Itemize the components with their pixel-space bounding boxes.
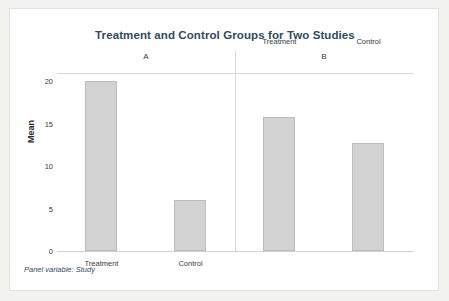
- x-axis-line: [57, 251, 413, 252]
- y-tick-label-20: 20: [27, 77, 53, 86]
- y-tick-label-0: 0: [27, 247, 53, 256]
- panel-variable-note: Panel variable: Study: [24, 265, 95, 274]
- bar-panel-a-control[interactable]: [174, 200, 206, 251]
- bar-panel-b-treatment[interactable]: [263, 117, 295, 251]
- plot-area: A B Treatment Control Mean 0 5 10 15 20 …: [57, 73, 413, 251]
- panel-label-b: B: [235, 52, 413, 61]
- y-tick-label-15: 15: [27, 119, 53, 128]
- group-top-label-treatment: Treatment: [235, 37, 324, 46]
- x-tick-label-control-a: Control: [146, 259, 235, 268]
- panel-divider: [235, 51, 236, 251]
- chart-figure: Treatment and Control Groups for Two Stu…: [9, 8, 439, 291]
- y-tick-label-10: 10: [27, 162, 53, 171]
- group-top-label-control: Control: [324, 37, 413, 46]
- bar-panel-a-treatment[interactable]: [85, 81, 117, 251]
- bar-panel-b-control[interactable]: [352, 143, 384, 252]
- panel-label-a: A: [57, 52, 235, 61]
- y-tick-label-5: 5: [27, 204, 53, 213]
